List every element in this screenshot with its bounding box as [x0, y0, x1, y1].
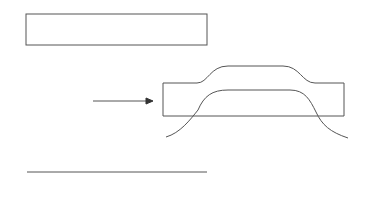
duplex-dna [26, 14, 207, 45]
diagram-canvas [0, 0, 372, 205]
three-strand-intermediate [163, 66, 348, 138]
recA-arrow [93, 98, 153, 104]
